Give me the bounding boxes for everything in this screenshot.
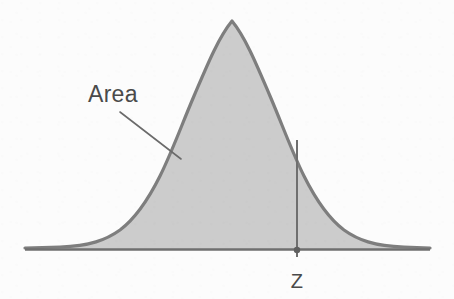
z-label: Z	[291, 270, 304, 292]
bell-curve-figure: Area Z	[0, 0, 454, 299]
normal-distribution-chart: Area Z	[0, 0, 454, 299]
z-axis-marker-dot	[294, 247, 300, 253]
area-under-curve-fill	[25, 21, 430, 249]
area-label-leader-line	[120, 112, 181, 159]
area-label: Area	[88, 81, 138, 107]
